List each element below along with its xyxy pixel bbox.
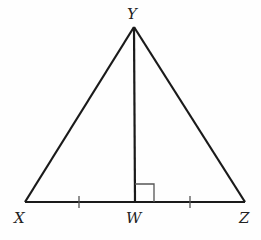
label-x: X [13,209,26,227]
label-y: Y [127,5,139,23]
label-w: W [126,209,143,227]
segment-xy [25,27,134,202]
segment-yw [134,27,135,202]
right-angle-mark [135,184,154,202]
segment-yz [134,27,245,202]
triangle-svg: Y X W Z [0,0,261,240]
label-z: Z [238,209,250,227]
triangle-diagram: Y X W Z [0,0,261,240]
